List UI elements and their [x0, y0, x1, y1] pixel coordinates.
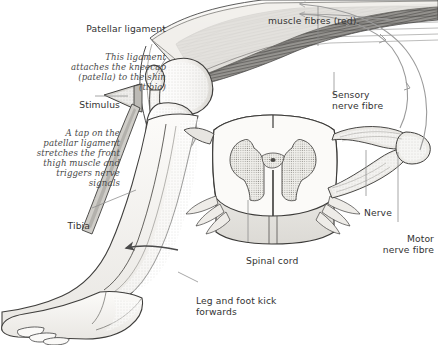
central-canal [270, 158, 275, 162]
label-leg-kick: Leg and foot kick forwards [196, 278, 306, 336]
label-sensory-nerve-fibre: Sensory nerve fibre [332, 72, 422, 130]
label-patellar-ligament-heading: Patellar ligament [44, 24, 166, 35]
label-stimulus-body: A tap on the patellar ligament stretches… [6, 129, 120, 188]
label-sensory-nerve-fibre-heading: Sensory nerve fibre [332, 90, 422, 111]
label-stimulus: Stimulus A tap on the patellar ligament … [6, 82, 120, 207]
label-stimulus-heading: Stimulus [6, 100, 120, 111]
label-leg-kick-heading: Leg and foot kick forwards [196, 296, 306, 317]
label-spinal-cord-heading: Spinal cord [246, 256, 308, 267]
label-tibia: Tibia [46, 203, 90, 250]
label-tibia-heading: Tibia [46, 221, 90, 232]
nerve-trunk [328, 127, 430, 198]
label-motor-nerve-fibre: Motor nerve fibre [356, 216, 434, 274]
leader-leg-kick [178, 272, 198, 282]
label-muscle-fibres: muscle fibres (red). [268, 0, 388, 45]
label-muscle-fibres-text: muscle fibres (red). [268, 16, 388, 27]
reflex-diagram-figure: Patellar ligament This ligament attaches… [0, 0, 438, 345]
label-motor-nerve-fibre-heading: Motor nerve fibre [356, 234, 434, 255]
